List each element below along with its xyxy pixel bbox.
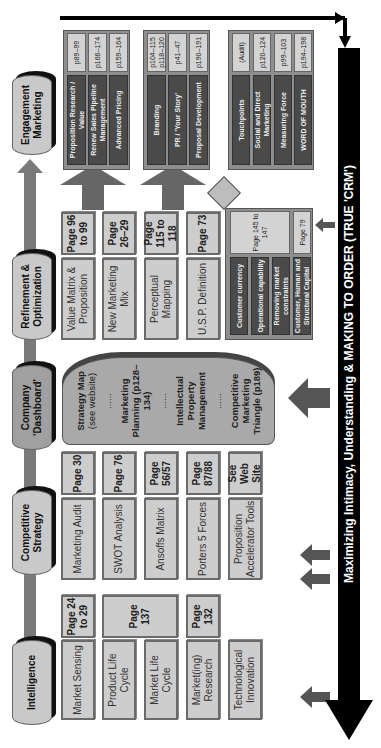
dashboard-competitive-triangle: Competitive Marketing Triangle (p189) <box>229 362 262 440</box>
eng-social-direct-page: p120–124 <box>253 33 271 72</box>
return-arrowhead-2-icon <box>339 36 351 48</box>
dashboard-cylinder: Strategy Map(see website) ...... Marketi… <box>62 357 275 445</box>
ref-perceptual-mapping-page: Page 115 to 118 <box>144 212 178 255</box>
stage-engagement-marketing: Engagement Marketing <box>12 75 52 155</box>
comp-porters-page: Page 87/88 <box>186 452 220 495</box>
return-line <box>60 16 345 20</box>
capital-customer-currency: Customer currency <box>230 257 248 335</box>
comp-swot-page: Page 76 <box>102 452 136 495</box>
comp-porters: Porters 5 Forces <box>186 498 220 580</box>
intel-market-sensing: Market Sensing <box>61 640 95 720</box>
capital-page-main: Page 145 to 147 <box>230 211 290 254</box>
stage-refinement-optimization: Refinement & Optimization <box>12 253 52 340</box>
eng-advanced-pricing: Advanced Pricing <box>109 75 128 165</box>
eng-proposal-development-page: p190–191 <box>189 33 208 72</box>
dashboard-marketing-planning: Marketing Planning (p128–134) <box>119 362 152 440</box>
comp-ansoffs: Ansoffs Matrix <box>144 498 178 580</box>
eng-touchpoints: Touchpoints <box>232 75 250 165</box>
arrow-right-icon-2 <box>140 165 206 210</box>
return-line-2 <box>343 18 347 36</box>
eng-word-of-mouth-page: p194–198 <box>294 33 312 72</box>
feedback-arrow-icon-2 <box>300 568 330 590</box>
eng-pr-your-story-page: p41–47 <box>168 33 187 72</box>
eng-proposition-research: Proposition Research / Value <box>67 75 86 165</box>
capital-customer-human: Customer, Human and Structural Capital <box>293 257 311 335</box>
capital-operational: Operational capability <box>251 257 269 335</box>
comp-proposition-tools: Proposition Accelerator Tools <box>228 498 262 580</box>
eng-advanced-pricing-page: p159–164 <box>109 33 128 72</box>
comp-marketing-audit-page: Page 30 <box>61 452 95 495</box>
eng-measuring-force: Measuring Force <box>274 75 292 165</box>
diagram-canvas: Intelligence Competitive Strategy Compan… <box>0 0 381 748</box>
eng-sales-pipeline-page: p166–174 <box>88 33 107 72</box>
banner-arrowhead-icon <box>325 700 373 740</box>
engagement-group-3: Touchpoints (Audit) Social and Direct Ma… <box>228 30 314 170</box>
comp-ansoffs-page: Page 56/57 <box>144 452 178 495</box>
ref-usp-definition-page: Page 73 <box>186 212 220 255</box>
comp-marketing-audit: Marketing Audit <box>61 498 95 580</box>
eng-sales-pipeline: Renew Sales Pipeline Management <box>88 75 107 165</box>
stage-competitive-strategy: Competitive Strategy <box>12 490 52 575</box>
feedback-arrow-icon-small <box>315 218 335 232</box>
intel-shared-page: Page 137 <box>102 595 178 638</box>
intel-product-life-cycle: Product Life Cycle <box>102 640 136 720</box>
comp-proposition-tools-page: See Web Site <box>228 452 262 495</box>
dashboard-ip-management: Intellectual Property Management <box>174 362 207 440</box>
eng-social-direct: Social and Direct Marketing <box>253 75 271 165</box>
connector-1 <box>24 568 36 648</box>
intel-market-life-cycle: Market Life Cycle <box>144 640 178 720</box>
ref-perceptual-mapping: Perceptual Mapping <box>144 258 178 340</box>
crm-banner: Maximizing Intimacy, Understanding & MAK… <box>338 48 360 700</box>
engagement-group-1: Proposition Research / Value p89–99 Rene… <box>63 30 130 170</box>
arrow-to-engagement-icon <box>17 159 43 173</box>
eng-branding-page: p104–115 p118–120 <box>147 33 166 72</box>
eng-touchpoints-page: (Audit) <box>232 33 250 72</box>
stage-intelligence: Intelligence <box>12 640 52 725</box>
connector-3 <box>24 338 36 368</box>
eng-proposition-research-page: p89–99 <box>67 33 86 72</box>
ref-value-matrix-page: Page 96 to 99 <box>61 212 95 255</box>
feedback-arrow-icon-big <box>288 378 330 418</box>
intel-marketing-research: Market(ing) Research <box>186 640 220 720</box>
capital-removing-constraints: Removing market constraints <box>272 257 290 335</box>
eng-proposal-development: Proposal Development <box>189 75 208 165</box>
ref-usp-definition: U.S.P. Definition <box>186 258 220 340</box>
ref-value-matrix: Value Matrix & Proposition <box>61 258 95 340</box>
eng-pr-your-story: PR / 'Your Story' <box>168 75 187 165</box>
ref-new-marketing-mix-page: Page 26–29 <box>102 212 136 255</box>
feedback-arrow-icon-3 <box>300 544 330 566</box>
connector-4 <box>24 168 36 258</box>
dashboard-strategy-map: Strategy Map(see website) <box>75 371 97 431</box>
intel-technological-innovation: Technological Innovation <box>228 640 262 720</box>
intel-marketing-research-page: Page 132 <box>186 595 220 638</box>
eng-word-of-mouth: WORD OF MOUTH <box>294 75 312 165</box>
ref-new-marketing-mix: New Marketing Mix <box>102 258 136 340</box>
capital-page-side: Page 79 <box>293 211 311 254</box>
capital-group: Customer currency Operational capability… <box>225 208 313 340</box>
stage-company-dashboard: Company 'Dashboard' <box>12 365 52 450</box>
double-arrow-icon <box>207 176 241 210</box>
eng-measuring-force-page: p99–103 <box>274 33 292 72</box>
comp-swot: SWOT Analysis <box>102 498 136 580</box>
eng-branding: Branding <box>147 75 166 165</box>
engagement-group-2: Branding p104–115 p118–120 PR / 'Your St… <box>143 30 210 170</box>
intel-market-sensing-page: Page 24 to 29 <box>61 595 95 638</box>
arrow-right-icon-1 <box>60 165 126 210</box>
